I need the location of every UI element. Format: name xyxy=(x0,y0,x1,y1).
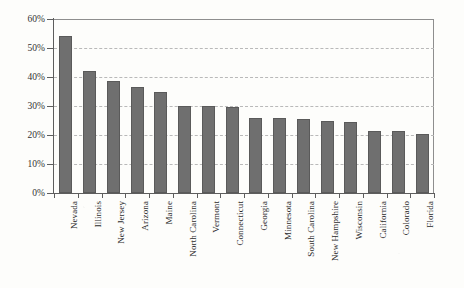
y-axis-tick-label: 50% xyxy=(0,43,45,53)
y-axis-tick xyxy=(47,193,54,194)
x-axis-label: Florida xyxy=(426,201,435,228)
y-axis-tick xyxy=(47,48,54,49)
x-axis-tick xyxy=(363,193,364,198)
gridline xyxy=(54,77,434,78)
y-axis-tick xyxy=(47,106,54,107)
bar xyxy=(344,122,357,193)
y-axis-tick-label: 40% xyxy=(0,72,45,82)
page-background: 0%10%20%30%40%50%60% NevadaIllinoisNew J… xyxy=(0,0,464,288)
gridline xyxy=(54,48,434,49)
y-axis-tick-label: 60% xyxy=(0,14,45,24)
x-axis-tick xyxy=(102,193,103,198)
x-axis-label: Arizona xyxy=(141,201,150,231)
x-axis-label: New Hampshire xyxy=(331,201,340,261)
x-axis-tick xyxy=(434,193,435,198)
bar xyxy=(249,118,262,193)
bar xyxy=(226,107,239,193)
y-axis-tick xyxy=(47,19,54,20)
x-axis-tick xyxy=(149,193,150,198)
y-axis-tick xyxy=(47,164,54,165)
y-axis-tick xyxy=(47,135,54,136)
x-axis-tick xyxy=(339,193,340,198)
bar xyxy=(178,106,191,193)
bar xyxy=(392,131,405,193)
x-axis-label: Georgia xyxy=(260,201,269,231)
bar xyxy=(202,106,215,193)
x-axis-tick xyxy=(387,193,388,198)
x-axis-tick xyxy=(197,193,198,198)
x-axis-tick xyxy=(244,193,245,198)
bar xyxy=(297,119,310,193)
x-axis-label: Maine xyxy=(165,201,174,225)
bar xyxy=(131,87,144,193)
x-axis-label: New Jersey xyxy=(117,201,126,244)
y-axis-tick-label: 20% xyxy=(0,130,45,140)
x-axis-label: Colorado xyxy=(402,201,411,235)
bar xyxy=(273,118,286,193)
y-axis-tick-label: 10% xyxy=(0,159,45,169)
x-axis-label: California xyxy=(379,201,388,239)
x-axis-label: South Carolina xyxy=(307,201,316,257)
x-axis-label: Wisconsin xyxy=(355,201,364,240)
bar xyxy=(107,81,120,193)
bar xyxy=(59,36,72,193)
x-axis-label: Vermont xyxy=(212,201,221,233)
x-axis-tick xyxy=(173,193,174,198)
bar xyxy=(368,131,381,193)
bar xyxy=(321,121,334,194)
y-axis-tick-label: 0% xyxy=(0,188,45,198)
x-axis-tick xyxy=(315,193,316,198)
bar xyxy=(416,134,429,193)
x-axis-tick xyxy=(78,193,79,198)
x-axis-tick xyxy=(292,193,293,198)
x-axis-label: Minnesota xyxy=(284,201,293,240)
x-axis-tick xyxy=(220,193,221,198)
x-axis-label: North Carolina xyxy=(189,201,198,257)
x-axis-label: Illinois xyxy=(94,201,103,227)
bar-chart: 0%10%20%30%40%50%60% NevadaIllinoisNew J… xyxy=(0,0,464,288)
x-axis-tick xyxy=(268,193,269,198)
y-axis-tick-label: 30% xyxy=(0,101,45,111)
bar xyxy=(154,92,167,194)
x-axis-tick xyxy=(410,193,411,198)
bar xyxy=(83,71,96,193)
x-axis-tick xyxy=(125,193,126,198)
x-axis-tick xyxy=(54,193,55,198)
y-axis-tick xyxy=(47,77,54,78)
x-axis-label: Connecticut xyxy=(236,201,245,246)
x-axis-label: Nevada xyxy=(70,201,79,229)
